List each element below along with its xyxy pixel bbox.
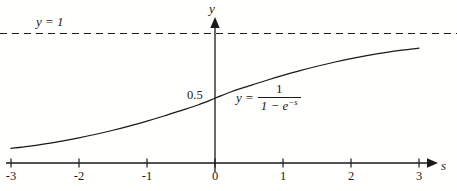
asymptote-label-text: y = 1 (36, 14, 64, 29)
asymptote-label: y = 1 (36, 15, 64, 28)
denominator-exponent: −s (288, 96, 297, 106)
xtick-label-neg1: -1 (132, 170, 162, 183)
denominator-base: 1 − e (261, 98, 289, 113)
curve-equation-fraction: 1 1 − e−s (258, 82, 301, 112)
fraction-numerator: 1 (272, 82, 287, 97)
xtick-label-1: 1 (268, 170, 298, 183)
xtick-label-2: 2 (336, 170, 366, 183)
y-axis-arrowhead (210, 17, 219, 28)
curve-equation-label: y = 1 1 − e−s (236, 82, 301, 112)
xtick-label-neg3: -3 (0, 170, 26, 183)
x-axis-label: s (441, 159, 446, 172)
y-axis-label: y (209, 2, 215, 15)
function-plot-figure: y = 1 y s 0.5 y = 1 1 − e−s -3 -2 -1 0 1… (0, 0, 457, 191)
xtick-label-neg2: -2 (64, 170, 94, 183)
curve-equation-lhs: y = (236, 91, 254, 104)
x-axis-arrowhead (427, 158, 438, 168)
xtick-label-0: 0 (200, 170, 230, 183)
xtick-label-3: 3 (404, 170, 434, 183)
y-intercept-label: 0.5 (187, 89, 203, 102)
plot-canvas (0, 0, 457, 191)
fraction-denominator: 1 − e−s (258, 98, 301, 113)
